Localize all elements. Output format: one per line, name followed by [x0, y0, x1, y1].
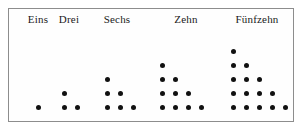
dot [270, 105, 275, 110]
triangular-numbers-figure: EinsDreiSechsZehnFünfzehn [0, 0, 304, 131]
dot [257, 105, 262, 110]
dot [231, 105, 236, 110]
dot [244, 105, 249, 110]
dot [231, 63, 236, 68]
dot [257, 77, 262, 82]
dot [283, 105, 288, 110]
dot [244, 63, 249, 68]
dot [231, 49, 236, 54]
dot [231, 91, 236, 96]
dot [231, 77, 236, 82]
dot [270, 91, 275, 96]
dot [257, 91, 262, 96]
dot [244, 91, 249, 96]
dot-group-5 [0, 0, 304, 131]
dot [244, 77, 249, 82]
